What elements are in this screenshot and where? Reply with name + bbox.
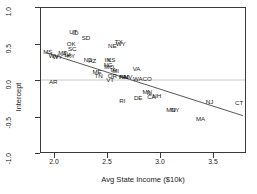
- data-point-ct: CT: [235, 98, 243, 105]
- plot-area: MSWVWYMTALLAKYSCOKUTIDSDNDAZMETNINKSMONC…: [40, 7, 246, 153]
- data-point-nj: NJ: [206, 97, 213, 104]
- data-point-wa: WA: [133, 75, 143, 82]
- chart-figure: 1.0 0.5 0.0 -0.5 -1.0 Intercept 2.0 2.5 …: [0, 0, 257, 194]
- x-tick-mark: [160, 153, 161, 158]
- data-point-id: ID: [72, 28, 78, 35]
- data-point-sd: SD: [82, 34, 90, 41]
- data-point-ny: NY: [171, 105, 179, 112]
- y-tick-label: -1.0: [5, 153, 12, 164]
- y-tick-label: 1.0: [5, 7, 12, 16]
- data-point-ri: RI: [119, 96, 125, 103]
- x-tick-mark: [107, 153, 108, 158]
- y-tick-label: 0.5: [5, 44, 12, 53]
- data-point-az: AZ: [88, 57, 96, 64]
- data-point-vt: VT: [106, 75, 114, 82]
- data-point-ky: KY: [67, 51, 75, 58]
- data-point-nv: NV: [124, 73, 132, 80]
- data-point-tn: TN: [95, 71, 103, 78]
- data-point-ok: OK: [67, 39, 76, 46]
- x-axis-label: Avg State Income ($10k): [40, 175, 246, 184]
- y-axis-label: Intercept: [14, 57, 23, 137]
- x-tick-label: 2.5: [102, 158, 111, 165]
- data-point-ma: MA: [196, 114, 205, 121]
- x-tick-mark: [54, 153, 55, 158]
- x-tick-label: 2.0: [49, 158, 58, 165]
- data-point-de: DE: [134, 93, 142, 100]
- x-tick-label: 3.0: [155, 158, 164, 165]
- data-point-co: CO: [143, 74, 152, 81]
- data-point-wy: WY: [116, 39, 126, 46]
- y-tick-label: -0.5: [5, 117, 12, 128]
- data-point-nh: NH: [152, 92, 161, 99]
- x-tick-mark: [213, 153, 214, 158]
- x-tick-label: 3.5: [208, 158, 217, 165]
- y-tick-label: 0.0: [5, 80, 12, 89]
- data-point-ar: AR: [49, 77, 57, 84]
- y-tick-mark: [35, 153, 40, 154]
- data-point-va: VA: [133, 65, 141, 72]
- regression-fit-line: [46, 53, 243, 116]
